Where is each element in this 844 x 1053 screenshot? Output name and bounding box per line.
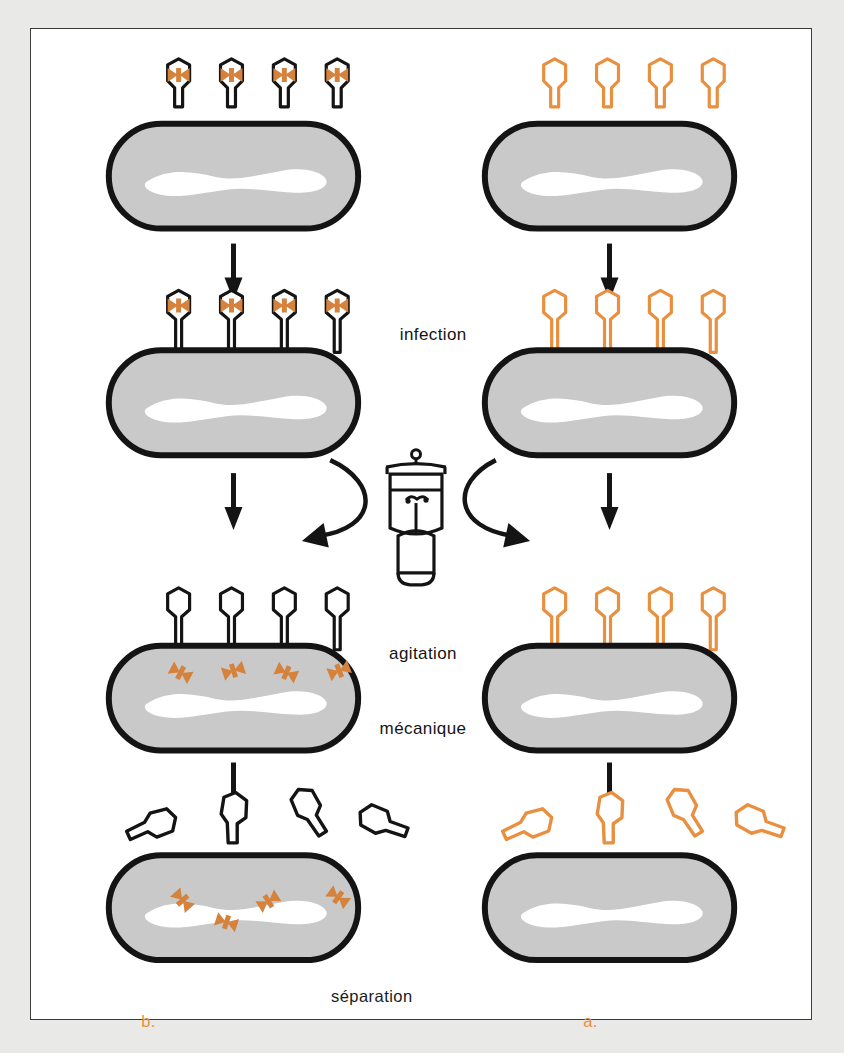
row-injected-left — [109, 588, 358, 751]
bacterium — [485, 350, 734, 455]
curved-arrow-left — [299, 460, 365, 552]
bacterium — [109, 124, 358, 229]
label-agitation: agitation mécanique — [343, 591, 503, 791]
row-injected-right — [485, 588, 734, 751]
arrow-agitation-right — [601, 473, 619, 530]
bacterium — [485, 124, 734, 229]
bacterium — [109, 350, 358, 455]
caption-left: b. marquage de l’ADN du phage au 32 P — [111, 934, 243, 1053]
caption-center: séparation des « dépouilles » et de la b… — [331, 934, 472, 1053]
diagram-canvas — [31, 29, 811, 1019]
bacterium — [485, 646, 734, 751]
caption-left-marker: b. — [141, 1012, 156, 1030]
caption-right: a. marquage des protéines du phage au 35… — [553, 934, 694, 1053]
blender-icon — [386, 450, 446, 585]
caption-right-marker: a. — [583, 1012, 598, 1030]
label-agitation-line1: agitation — [343, 641, 503, 666]
label-infection-text: infection — [400, 325, 467, 344]
row-attached-right — [485, 290, 734, 455]
row-free-phages-left — [109, 59, 358, 229]
label-infection: infection — [353, 297, 493, 372]
row-attached-left — [109, 290, 358, 455]
row-free-phages-right — [485, 59, 734, 229]
caption-center-line1: séparation — [331, 984, 472, 1009]
figure-frame: infection agitation mécanique b. marquag… — [30, 28, 812, 1020]
bacterium — [109, 646, 358, 751]
label-agitation-line2: mécanique — [343, 716, 503, 741]
arrow-agitation-left — [225, 473, 243, 530]
curved-arrow-right — [465, 460, 533, 552]
